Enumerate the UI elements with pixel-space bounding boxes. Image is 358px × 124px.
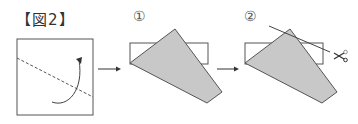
fold-line — [17, 58, 93, 97]
scissors-icon — [334, 50, 347, 62]
folded-paper-step-1 — [130, 29, 222, 103]
rotation-arrow-icon — [52, 60, 80, 103]
folded-paper-step-2 — [245, 26, 337, 103]
arrow-right-icon — [217, 67, 239, 72]
diagram-canvas — [0, 0, 358, 124]
square-paper — [17, 39, 93, 115]
arrow-right-icon — [98, 67, 121, 72]
